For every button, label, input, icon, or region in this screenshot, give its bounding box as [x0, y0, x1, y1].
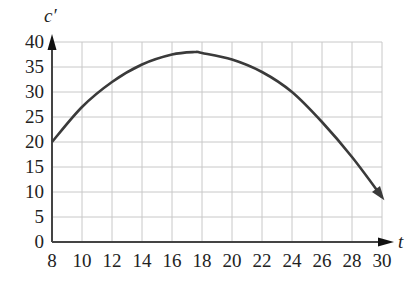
- x-tick-label: 24: [283, 250, 303, 271]
- x-tick-label: 28: [343, 250, 362, 271]
- y-tick-label: 35: [25, 56, 44, 77]
- y-tick-label: 15: [25, 156, 44, 177]
- data-curve: [52, 52, 382, 197]
- x-tick-label: 22: [253, 250, 272, 271]
- x-axis-label: t: [398, 231, 404, 252]
- y-tick-label: 30: [25, 81, 44, 102]
- grid-lines: [52, 42, 382, 242]
- x-tick-label: 16: [163, 250, 182, 271]
- x-axis-arrow-icon: [378, 238, 394, 247]
- y-tick-label: 10: [25, 181, 44, 202]
- y-tick-label: 40: [25, 31, 44, 52]
- line-chart: 0510152025303540 81012141618202224262830…: [0, 0, 413, 281]
- x-tick-label: 12: [103, 250, 122, 271]
- x-tick-label: 18: [193, 250, 212, 271]
- x-tick-label: 8: [47, 250, 57, 271]
- x-tick-label: 26: [313, 250, 332, 271]
- x-tick-label: 20: [223, 250, 242, 271]
- y-tick-label: 25: [25, 106, 44, 127]
- x-tick-labels: 81012141618202224262830: [47, 250, 391, 271]
- axes: [48, 34, 395, 247]
- x-tick-label: 30: [373, 250, 392, 271]
- y-tick-label: 5: [35, 206, 45, 227]
- x-tick-label: 14: [133, 250, 153, 271]
- y-tick-label: 20: [25, 131, 44, 152]
- y-axis-label: c′: [44, 5, 57, 26]
- y-tick-labels: 0510152025303540: [25, 31, 44, 252]
- y-tick-label: 0: [35, 231, 45, 252]
- x-tick-label: 10: [73, 250, 92, 271]
